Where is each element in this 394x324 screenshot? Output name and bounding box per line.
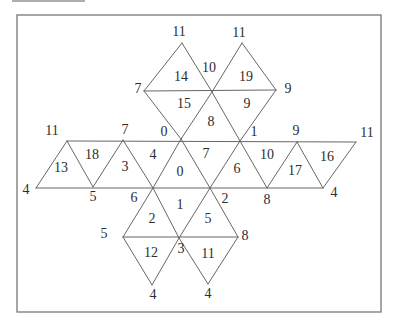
face-label: 19 [239,69,253,84]
vertex-label: 11 [172,24,185,39]
face-label: 18 [85,147,99,162]
vertex-label: 2 [222,191,229,206]
face-label: 15 [177,96,191,111]
vertex-label: 4 [331,185,338,200]
vertex-label: 7 [135,81,142,96]
face-label: 4 [150,147,157,162]
page-canvas: 1170191145628411117109538441419159813183… [0,0,394,324]
face-label: 1 [177,197,184,212]
vertex-label: 3 [178,241,185,256]
face-label: 11 [201,246,214,261]
face-label: 8 [208,114,215,129]
vertex-label: 4 [23,182,30,197]
vertex-label: 9 [285,81,292,96]
vertex-label: 8 [264,192,271,207]
face-label: 14 [174,69,188,84]
face-label: 6 [234,161,241,176]
vertex-label: 1 [251,124,258,139]
vertex-label: 9 [293,123,300,138]
face-label: 3 [122,159,129,174]
face-label: 2 [149,211,156,226]
face-label: 12 [144,245,158,260]
vertex-label: 6 [131,190,138,205]
face-label: 16 [320,149,334,164]
face-label: 9 [244,96,251,111]
vertex-label: 11 [45,123,58,138]
vertex-label: 5 [101,226,108,241]
vertex-label: 8 [242,228,249,243]
face-label: 13 [54,160,68,175]
vertex-label: 7 [122,122,129,137]
vertex-label: 4 [150,287,157,302]
vertex-label: 5 [90,189,97,204]
vertex-label: 11 [232,25,245,40]
vertex-label: 10 [202,60,216,75]
face-label: 17 [288,163,302,178]
face-label: 5 [205,211,212,226]
vertex-label: 11 [360,125,373,140]
face-label: 10 [260,147,274,162]
vertex-label: 0 [161,124,168,139]
face-label: 0 [177,164,184,179]
vertex-label: 4 [205,286,212,301]
icosahedron-net-diagram: 1170191145628411117109538441419159813183… [0,0,394,324]
face-label: 7 [203,146,210,161]
